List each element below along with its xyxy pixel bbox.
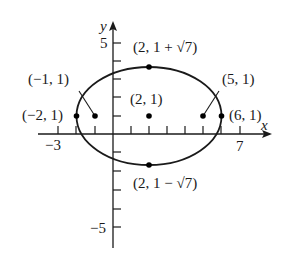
point-focus-left [92, 113, 98, 119]
point-vertex-right [219, 113, 225, 119]
point-co-vertex-bottom [146, 162, 152, 168]
focus-left-leader [79, 91, 95, 116]
x-tick-label-7: 7 [236, 138, 244, 154]
ellipse-diagram: y x −3 7 5 −5 (2, 1 + √7) (−1, 1) (5, 1)… [0, 0, 288, 256]
point-co-vertex-top [146, 64, 152, 70]
y-tick-label-5: 5 [100, 35, 108, 51]
points [74, 64, 225, 168]
axes [38, 27, 266, 248]
x-ticks [58, 126, 240, 134]
label-vertex-right: (6, 1) [229, 107, 262, 124]
label-vertex-left: (−2, 1) [22, 107, 63, 124]
focus-right-leader [203, 91, 219, 116]
point-center [146, 113, 152, 119]
y-tick-label-neg5: −5 [90, 220, 106, 236]
label-co-vertex-top: (2, 1 + √7) [133, 39, 197, 56]
point-focus-right [200, 113, 206, 119]
y-axis-label: y [98, 18, 107, 34]
x-tick-label-neg3: −3 [45, 137, 61, 153]
label-focus-left: (−1, 1) [28, 71, 69, 88]
label-center: (2, 1) [130, 91, 163, 108]
point-vertex-left [74, 113, 80, 119]
label-co-vertex-bottom: (2, 1 − √7) [133, 175, 197, 192]
label-focus-right: (5, 1) [222, 71, 255, 88]
